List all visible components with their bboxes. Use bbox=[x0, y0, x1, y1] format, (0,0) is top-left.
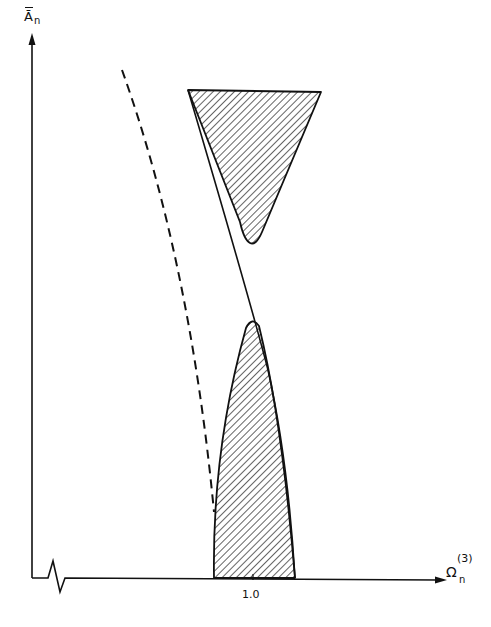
x-tick-label: 1.0 bbox=[242, 588, 260, 601]
x-axis-label: Ω (3) n bbox=[446, 564, 457, 580]
y-axis-label: Ān bbox=[24, 9, 40, 26]
upper-shaded-region bbox=[188, 90, 321, 244]
y-axis bbox=[29, 33, 36, 578]
diagram-canvas bbox=[0, 0, 491, 627]
dashed-curve bbox=[122, 70, 214, 512]
y-axis-arrow-icon bbox=[29, 33, 36, 45]
